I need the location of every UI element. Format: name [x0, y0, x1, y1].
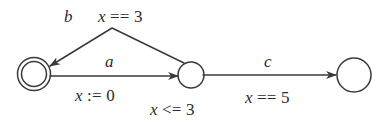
state-s2-circle — [337, 58, 371, 92]
state-s0-inner-circle — [22, 62, 47, 87]
diagram-canvas: b x == 3 a x := 0 x <= 3 c x == 5 — [0, 0, 385, 124]
guard-c-variable: x — [245, 88, 253, 107]
invariant-s1-value: 3 — [186, 100, 195, 119]
state-s1-invariant-label: x <= 3 — [150, 101, 195, 118]
transition-a-event-label: a — [105, 53, 114, 70]
invariant-s1-variable: x — [150, 100, 158, 119]
action-a-value: 0 — [106, 86, 115, 105]
action-a-variable: x — [75, 86, 83, 105]
state-s0-outer-circle — [18, 58, 51, 91]
transition-b-guard-label: x == 3 — [98, 8, 143, 25]
guard-b-variable: x — [98, 7, 106, 26]
transition-b-edge — [50, 28, 184, 66]
guard-c-value: 5 — [281, 88, 290, 107]
transition-c-event-label: c — [264, 53, 272, 70]
state-s1-circle — [178, 62, 204, 88]
guard-b-operator: == — [106, 7, 134, 26]
guard-b-value: 3 — [134, 7, 143, 26]
action-a-operator: := — [83, 86, 107, 105]
transition-a-action-label: x := 0 — [75, 87, 115, 104]
guard-c-operator: == — [253, 88, 281, 107]
invariant-s1-operator: <= — [158, 100, 186, 119]
transition-c-guard-label: x == 5 — [245, 89, 290, 106]
transition-b-event-label: b — [64, 8, 73, 25]
